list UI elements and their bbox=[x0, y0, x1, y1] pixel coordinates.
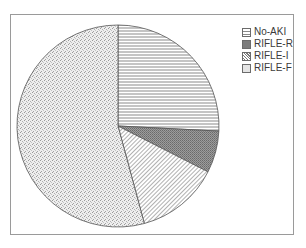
legend: No-AKI RIFLE-R RIFLE-I RIFLE-F bbox=[242, 26, 293, 74]
legend-label: RIFLE-I bbox=[254, 50, 288, 62]
legend-item-rifle-i: RIFLE-I bbox=[242, 50, 293, 62]
legend-label: No-AKI bbox=[254, 26, 286, 38]
legend-item-rifle-f: RIFLE-F bbox=[242, 62, 293, 74]
slice-no-aki bbox=[118, 25, 219, 131]
legend-label: RIFLE-F bbox=[254, 62, 292, 74]
legend-label: RIFLE-R bbox=[254, 38, 293, 50]
swatch-dots-icon bbox=[242, 64, 251, 73]
swatch-horizontal-lines-icon bbox=[242, 28, 251, 37]
swatch-dark-fill-icon bbox=[242, 40, 251, 49]
legend-item-no-aki: No-AKI bbox=[242, 26, 293, 38]
swatch-diagonal-hatch-icon bbox=[242, 52, 251, 61]
legend-item-rifle-r: RIFLE-R bbox=[242, 38, 293, 50]
